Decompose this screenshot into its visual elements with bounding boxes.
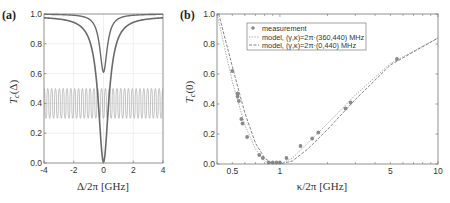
y-tick-label: 0.0 — [203, 159, 215, 169]
x-tick-label: 4 — [161, 165, 166, 175]
measurement-point — [285, 156, 289, 160]
measurement-point — [236, 95, 240, 99]
y-tick-label: 1.0 — [203, 9, 215, 19]
x-tick-label: 0 — [101, 165, 106, 175]
measurement-point — [241, 122, 245, 126]
panel-a: (a) 0.00.20.40.60.81.0 -4-2024 Tc(Δ) Δ/2… — [2, 8, 166, 192]
measurement-point — [395, 57, 399, 61]
measurement-point — [349, 101, 353, 105]
legend-entry-model-2: model, (γ,κ)=2π·(0,440) MHz — [262, 41, 356, 50]
x-tick-label: 10 — [433, 166, 443, 176]
panel-a-label: (a) — [2, 8, 16, 22]
panel-b-label: (b) — [180, 8, 195, 22]
panel-b-y-axis-label: Tc(0) — [183, 80, 197, 103]
measurement-point — [237, 99, 241, 103]
legend-marker-measurement — [251, 26, 255, 30]
x-tick-label: -2 — [70, 165, 78, 175]
legend-entry-measurement: measurement — [262, 24, 307, 33]
measurement-point — [245, 135, 249, 139]
measurement-point — [261, 156, 265, 160]
y-tick-label: 0.6 — [30, 69, 42, 79]
x-tick-label: 2 — [131, 165, 136, 175]
measurement-point — [299, 144, 303, 148]
x-tick-label: 5 — [388, 166, 393, 176]
measurement-point — [316, 131, 320, 135]
measurement-point — [257, 153, 261, 157]
panel-a-grid — [44, 14, 163, 163]
x-tick-label: -4 — [40, 165, 48, 175]
y-tick-label: 0.4 — [30, 98, 42, 108]
y-tick-label: 0.6 — [203, 69, 215, 79]
y-tick-label: 0.4 — [203, 99, 215, 109]
panel-b: (b) 0.00.20.40.60.81.0 0.51510 Tc(0) κ/2… — [180, 8, 443, 192]
panel-a-x-axis-label: Δ/2π [GHz] — [77, 180, 129, 192]
x-tick-label: 1 — [278, 166, 283, 176]
figure: (a) 0.00.20.40.60.81.0 -4-2024 Tc(Δ) Δ/2… — [0, 0, 450, 203]
measurement-point — [230, 69, 234, 73]
y-tick-label: 0.8 — [30, 39, 42, 49]
panel-a-y-axis-label: Tc(Δ) — [7, 80, 21, 104]
y-tick-label: 0.8 — [203, 39, 215, 49]
measurement-point — [344, 107, 348, 111]
y-tick-label: 0.2 — [30, 128, 42, 138]
panel-b-x-axis-label: κ/2π [GHz] — [297, 180, 348, 192]
measurement-point — [310, 137, 314, 141]
y-tick-label: 1.0 — [30, 9, 42, 19]
panel-b-legend: measurement model, (γ,κ)=2π·(360,440) MH… — [247, 23, 366, 50]
y-tick-label: 0.2 — [203, 129, 215, 139]
x-tick-label: 0.5 — [226, 166, 238, 176]
measurement-point — [239, 117, 243, 121]
